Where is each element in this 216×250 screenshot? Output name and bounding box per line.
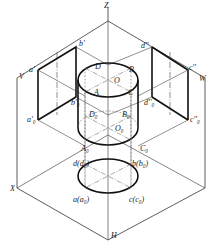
label-a-prime: a' <box>29 66 35 74</box>
label-d-d0: d(d₀) <box>73 160 89 168</box>
label-B0: B₀ <box>122 111 130 119</box>
label-A0: A₀ <box>81 145 89 153</box>
top-edges <box>17 21 205 78</box>
label-d-dprime: d'' <box>141 42 148 50</box>
label-C0: C₀ <box>140 145 148 153</box>
label-b-prime: b' <box>79 40 85 48</box>
label-H: H <box>111 232 117 240</box>
label-V: V <box>19 73 24 81</box>
projection-diagram: ZVWXHa'b'a'₀b'₀d''c''d''₀c''₀DBOACD₀B₀O₀… <box>0 0 216 250</box>
label-Z: Z <box>104 2 108 10</box>
label-D: D <box>95 63 101 71</box>
label-a-a0: a(a₀) <box>73 196 89 204</box>
label-b-prime-0: b'₀ <box>71 99 80 107</box>
projection-planes <box>17 7 205 240</box>
label-B: B <box>129 66 134 74</box>
label-X: X <box>10 185 15 193</box>
label-A: A <box>94 89 99 97</box>
label-c-dprime-0: c''₀ <box>190 116 200 124</box>
label-c-c0: c(c₀) <box>129 196 144 204</box>
label-c-dprime: c'' <box>189 64 196 72</box>
label-C: C <box>128 89 133 97</box>
label-W: W <box>199 75 206 83</box>
label-O0: O₀ <box>115 125 124 133</box>
label-b-b0: b(b₀) <box>132 160 148 168</box>
diagram-svg <box>0 0 216 250</box>
label-D0: D₀ <box>89 111 98 119</box>
label-O: O <box>114 77 120 85</box>
label-a-prime-0: a'₀ <box>27 116 36 124</box>
label-d-dprime-0: d''₀ <box>144 99 154 107</box>
